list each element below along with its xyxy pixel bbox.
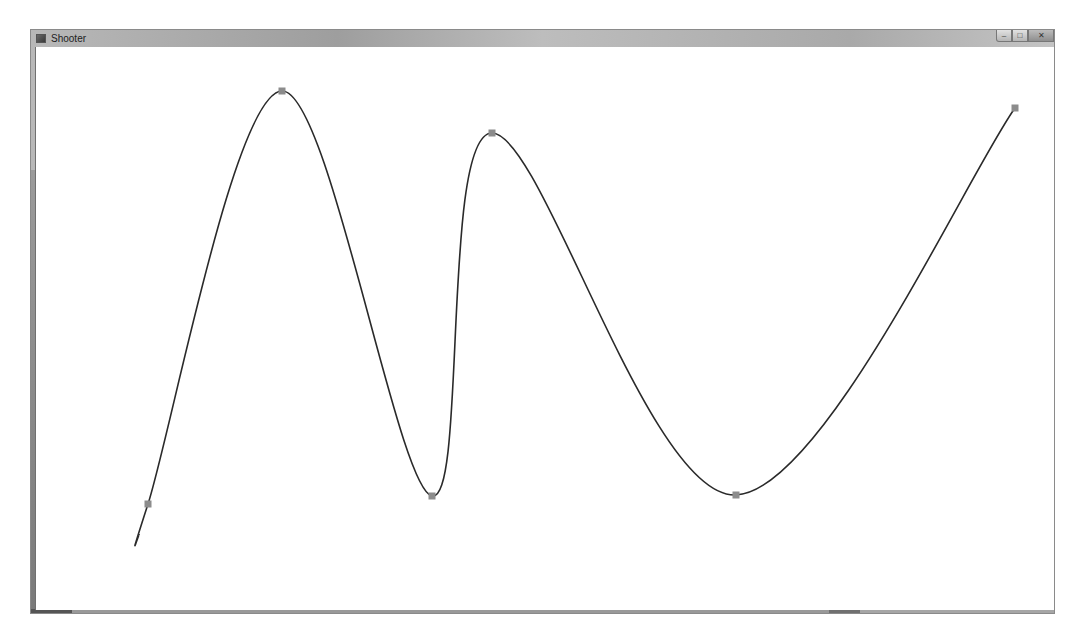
control-point-handle[interactable] [279, 88, 286, 95]
control-point-handle[interactable] [1012, 105, 1019, 112]
spline-canvas[interactable] [0, 0, 1085, 639]
spline-curve [135, 91, 1015, 546]
control-point-handle[interactable] [145, 501, 152, 508]
control-point-handle[interactable] [429, 493, 436, 500]
control-point-handle[interactable] [489, 130, 496, 137]
control-points [145, 88, 1019, 508]
control-point-handle[interactable] [733, 492, 740, 499]
